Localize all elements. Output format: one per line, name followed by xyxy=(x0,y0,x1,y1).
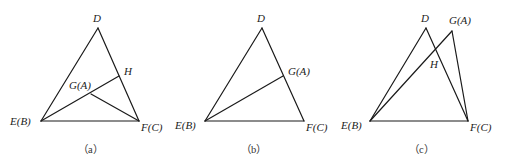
label-G: G(A) xyxy=(288,65,310,78)
segment-GF xyxy=(91,94,139,121)
panel-c: D G(A) H E(B) F(C) （c） xyxy=(340,12,492,155)
segment-DF xyxy=(98,28,139,121)
label-G: G(A) xyxy=(69,79,91,92)
label-E: E(B) xyxy=(340,119,362,132)
label-F: F(C) xyxy=(305,121,328,134)
label-F: F(C) xyxy=(140,121,163,134)
label-H: H xyxy=(123,65,133,77)
segment-GF xyxy=(452,31,468,121)
geometry-figure: D H G(A) E(B) F(C) （a） D G(A) E(B) F(C) … xyxy=(0,0,507,162)
label-H: H xyxy=(429,58,439,70)
label-D: D xyxy=(256,12,265,24)
caption-b: （b） xyxy=(241,144,266,155)
label-E: E(B) xyxy=(174,119,196,132)
segment-DE xyxy=(205,28,262,121)
label-G: G(A) xyxy=(449,14,471,27)
panel-b: D G(A) E(B) F(C) （b） xyxy=(174,12,328,155)
caption-a: （a） xyxy=(78,144,103,155)
label-D: D xyxy=(92,12,101,24)
label-D: D xyxy=(420,12,429,24)
segment-EG xyxy=(205,76,283,121)
label-F: F(C) xyxy=(469,121,492,134)
segment-EG xyxy=(370,31,452,121)
segment-DE xyxy=(370,28,426,121)
label-E: E(B) xyxy=(9,115,31,128)
segment-DE xyxy=(41,28,98,121)
segment-DF xyxy=(426,28,468,121)
panel-a: D H G(A) E(B) F(C) （a） xyxy=(9,12,163,155)
caption-c: （c） xyxy=(409,144,434,155)
